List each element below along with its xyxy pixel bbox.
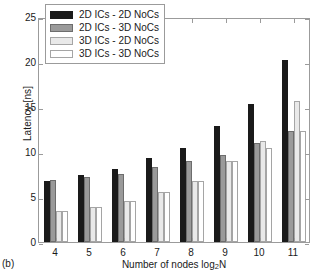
bar	[130, 201, 136, 242]
y-tick-mark	[39, 64, 43, 65]
x-tick-mark	[90, 238, 91, 242]
x-tick-label: 9	[213, 247, 237, 258]
legend-swatch-icon	[50, 37, 73, 45]
x-axis-title: Number of nodes log2N	[38, 259, 310, 271]
x-axis-title-prefix: Number of nodes log	[122, 259, 215, 270]
figure: Latency [ns] 0510152025 4567891011 Numbe…	[0, 0, 318, 274]
y-tick-mark	[305, 154, 309, 155]
y-tick-label: 20	[4, 58, 36, 68]
legend-label: 3D ICs - 2D NoCs	[79, 36, 159, 46]
x-tick-label: 8	[179, 247, 203, 258]
x-tick-mark	[56, 238, 57, 242]
legend-label: 2D ICs - 3D NoCs	[79, 23, 159, 33]
bar	[266, 148, 272, 242]
legend-item: 3D ICs - 3D NoCs	[50, 47, 159, 60]
y-tick-mark	[305, 64, 309, 65]
x-tick-label: 7	[145, 247, 169, 258]
legend-swatch-icon	[50, 11, 73, 19]
y-tick-mark	[305, 199, 309, 200]
x-tick-mark	[158, 238, 159, 242]
bar	[300, 131, 306, 242]
y-tick-label: 10	[4, 148, 36, 158]
x-tick-label: 11	[281, 247, 305, 258]
x-tick-label: 6	[111, 247, 135, 258]
y-tick-mark	[39, 109, 43, 110]
legend-item: 3D ICs - 2D NoCs	[50, 34, 159, 47]
y-tick-mark	[305, 109, 309, 110]
bar	[198, 181, 204, 242]
y-tick-mark	[39, 154, 43, 155]
y-tick-mark	[39, 19, 43, 20]
x-axis-title-suffix: N	[219, 259, 226, 270]
y-tick-mark	[39, 199, 43, 200]
y-tick-label: 0	[4, 238, 36, 248]
x-tick-mark	[226, 238, 227, 242]
legend: 2D ICs - 2D NoCs2D ICs - 3D NoCs3D ICs -…	[45, 4, 165, 64]
legend-item: 2D ICs - 2D NoCs	[50, 8, 159, 21]
legend-item: 2D ICs - 3D NoCs	[50, 21, 159, 34]
legend-swatch-icon	[50, 50, 73, 58]
y-tick-mark	[305, 19, 309, 20]
legend-swatch-icon	[50, 24, 73, 32]
bar	[96, 207, 102, 242]
bar	[232, 161, 238, 242]
x-tick-label: 5	[77, 247, 101, 258]
bar	[164, 192, 170, 242]
x-tick-mark	[192, 19, 193, 23]
y-tick-mark	[39, 244, 43, 245]
legend-label: 2D ICs - 2D NoCs	[79, 10, 159, 20]
y-tick-label: 25	[4, 13, 36, 23]
legend-label: 3D ICs - 3D NoCs	[79, 49, 159, 59]
y-tick-label: 5	[4, 193, 36, 203]
x-tick-mark	[260, 238, 261, 242]
x-tick-mark	[294, 238, 295, 242]
y-tick-mark	[305, 244, 309, 245]
x-tick-mark	[124, 238, 125, 242]
x-tick-label: 4	[43, 247, 67, 258]
x-tick-mark	[226, 19, 227, 23]
subfigure-caption: (b)	[2, 258, 14, 269]
x-tick-mark	[294, 19, 295, 23]
x-tick-label: 10	[247, 247, 271, 258]
bar	[62, 211, 68, 242]
x-tick-mark	[192, 238, 193, 242]
y-tick-label: 15	[4, 103, 36, 113]
x-tick-mark	[260, 19, 261, 23]
